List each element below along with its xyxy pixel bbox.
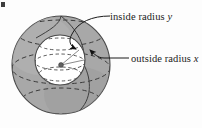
label-inside-radius-text: inside radius <box>110 11 167 22</box>
label-outside-radius-variable: x <box>194 53 199 64</box>
inner-sphere-body <box>35 35 85 85</box>
label-outside-radius-text: outside radius <box>131 53 194 64</box>
center-dot <box>59 63 64 68</box>
label-inside-radius-variable: y <box>167 11 172 22</box>
nested-spheres-figure: inside radius y outside radius x <box>0 0 202 128</box>
corner-mark <box>1 2 5 7</box>
label-outside-radius: outside radius x <box>131 53 199 64</box>
label-inside-radius: inside radius y <box>110 11 172 22</box>
